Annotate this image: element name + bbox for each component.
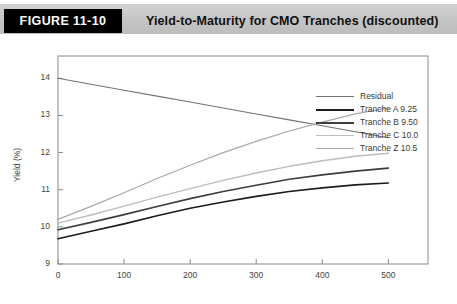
x-tick-label: 300	[236, 270, 276, 280]
x-tick-label: 0	[38, 270, 78, 280]
legend-item: Tranche C 10.0	[316, 130, 418, 141]
y-tick-label: 12	[24, 147, 50, 157]
y-tick-label: 9	[24, 258, 50, 268]
chart-plot	[0, 34, 457, 304]
x-tick-label: 500	[368, 270, 408, 280]
legend-swatch-tranche-c	[316, 135, 354, 136]
y-tick-label: 13	[24, 109, 50, 119]
legend-item: Residual	[316, 91, 418, 102]
chart-container: 9 10 11 12 13 14 0 100 200 300 400 500 Y…	[0, 34, 457, 304]
legend-label: Tranche Z 10.5	[360, 143, 417, 154]
legend-swatch-tranche-a	[316, 109, 354, 111]
legend-label: Tranche A 9.25	[360, 104, 417, 115]
figure-header-band: FIGURE 11-10 Yield-to-Maturity for CMO T…	[0, 4, 457, 34]
figure-number-tag: FIGURE 11-10	[4, 9, 122, 33]
legend-item: Tranche A 9.25	[316, 104, 418, 115]
chart-legend: Residual Tranche A 9.25 Tranche B 9.50 T…	[316, 91, 418, 154]
figure-title: Yield-to-Maturity for CMO Tranches (disc…	[146, 9, 438, 33]
y-tick-label: 11	[24, 184, 50, 194]
legend-item: Tranche B 9.50	[316, 117, 418, 128]
x-tick-label: 200	[170, 270, 210, 280]
legend-swatch-tranche-z	[316, 148, 354, 149]
x-tick-label: 100	[104, 270, 144, 280]
chart-axes	[58, 56, 428, 264]
y-axis-label: Yield (%)	[12, 148, 22, 182]
x-tick-label: 400	[302, 270, 342, 280]
legend-item: Tranche Z 10.5	[316, 143, 418, 154]
legend-swatch-residual	[316, 96, 354, 97]
legend-label: Residual	[360, 91, 393, 102]
y-tick-label: 10	[24, 221, 50, 231]
y-tick-label: 14	[24, 72, 50, 82]
legend-label: Tranche C 10.0	[360, 130, 418, 141]
legend-swatch-tranche-b	[316, 122, 354, 124]
legend-label: Tranche B 9.50	[360, 117, 418, 128]
